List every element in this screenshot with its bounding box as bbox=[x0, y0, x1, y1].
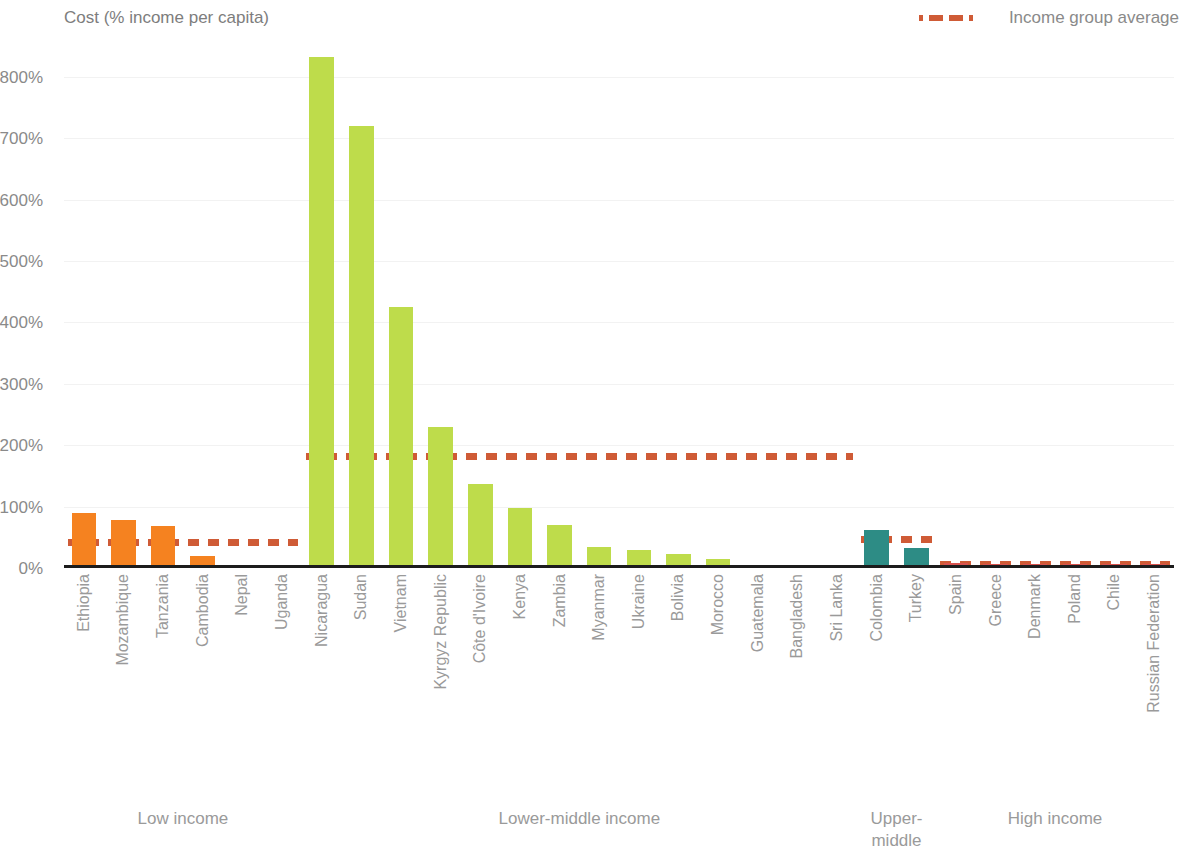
bar-slot bbox=[143, 40, 183, 568]
x-axis-tick-label: Côte d'Ivoire bbox=[471, 574, 489, 663]
bar[interactable] bbox=[349, 126, 374, 568]
bar-slot bbox=[1055, 40, 1095, 568]
x-axis-label-slot: Bangladesh bbox=[778, 574, 818, 784]
x-axis-label-slot: Greece bbox=[976, 574, 1016, 784]
x-axis-tick-label: Sri Lanka bbox=[828, 574, 846, 642]
bar-slot bbox=[1015, 40, 1055, 568]
bar-slot bbox=[896, 40, 936, 568]
bar[interactable] bbox=[151, 526, 176, 568]
bar-slot bbox=[183, 40, 223, 568]
x-axis-label-slot: Denmark bbox=[1015, 574, 1055, 784]
x-axis-tick-label: Poland bbox=[1066, 574, 1084, 624]
axis-baseline bbox=[64, 565, 1174, 568]
bar-slot bbox=[619, 40, 659, 568]
bar-series bbox=[64, 40, 1174, 568]
income-group-label: Lower-middle income bbox=[302, 808, 857, 856]
y-axis-tick-label: 0% bbox=[0, 559, 43, 579]
income-group-label: Upper-middle income bbox=[857, 808, 936, 856]
x-axis-tick-label: Nepal bbox=[233, 574, 251, 616]
bar[interactable] bbox=[547, 525, 572, 568]
x-axis-tick-label: Greece bbox=[987, 574, 1005, 626]
bar[interactable] bbox=[468, 484, 493, 568]
bar-slot bbox=[738, 40, 778, 568]
bar-slot bbox=[778, 40, 818, 568]
x-axis-tick-label: Kenya bbox=[511, 574, 529, 619]
x-axis-label-slot: Vietnam bbox=[381, 574, 421, 784]
x-axis-tick-label: Bolivia bbox=[669, 574, 687, 621]
bar-slot bbox=[698, 40, 738, 568]
x-axis-labels: EthiopiaMozambiqueTanzaniaCambodiaNepalU… bbox=[64, 574, 1174, 784]
bar-slot bbox=[302, 40, 342, 568]
x-axis-label-slot: Uganda bbox=[262, 574, 302, 784]
x-axis-label-slot: Sri Lanka bbox=[817, 574, 857, 784]
x-axis-label-slot: Bolivia bbox=[659, 574, 699, 784]
bar[interactable] bbox=[428, 427, 453, 568]
chart-legend: Income group average bbox=[919, 8, 1179, 28]
legend-label-income-group-average: Income group average bbox=[1009, 8, 1179, 28]
x-axis-label-slot: Zambia bbox=[540, 574, 580, 784]
x-axis-tick-label: Chile bbox=[1105, 574, 1123, 610]
x-axis-label-slot: Cambodia bbox=[183, 574, 223, 784]
y-axis-tick-label: 600% bbox=[0, 191, 43, 211]
x-axis-tick-label: Colombia bbox=[868, 574, 886, 642]
x-axis-tick-label: Turkey bbox=[907, 574, 925, 622]
bar-slot bbox=[262, 40, 302, 568]
y-axis-tick-label: 800% bbox=[0, 68, 43, 88]
x-axis-tick-label: Vietnam bbox=[392, 574, 410, 632]
bar-slot bbox=[64, 40, 104, 568]
bar-slot bbox=[1134, 40, 1174, 568]
x-axis-tick-label: Guatemala bbox=[749, 574, 767, 652]
bar[interactable] bbox=[389, 307, 414, 568]
y-axis-tick-label: 500% bbox=[0, 252, 43, 272]
income-group-label: Low income bbox=[64, 808, 302, 856]
x-axis-tick-label: Myanmar bbox=[590, 574, 608, 641]
x-axis-tick-label: Ukraine bbox=[630, 574, 648, 629]
y-axis-tick-label: 100% bbox=[0, 498, 43, 518]
dashed-line-swatch-icon bbox=[919, 15, 993, 21]
x-axis-label-slot: Sudan bbox=[341, 574, 381, 784]
bar-slot bbox=[936, 40, 976, 568]
x-axis-label-slot: Guatemala bbox=[738, 574, 778, 784]
x-axis-label-slot: Chile bbox=[1095, 574, 1135, 784]
bar-slot bbox=[857, 40, 897, 568]
x-axis-label-slot: Colombia bbox=[857, 574, 897, 784]
x-axis-label-slot: Ethiopia bbox=[64, 574, 104, 784]
bar[interactable] bbox=[864, 530, 889, 568]
x-axis-tick-label: Bangladesh bbox=[788, 574, 806, 659]
bar-slot bbox=[223, 40, 263, 568]
x-axis-label-slot: Kenya bbox=[500, 574, 540, 784]
x-axis-label-slot: Myanmar bbox=[579, 574, 619, 784]
bar-slot bbox=[421, 40, 461, 568]
x-axis-label-slot: Poland bbox=[1055, 574, 1095, 784]
y-axis-tick-label: 400% bbox=[0, 313, 43, 333]
x-axis-label-slot: Morocco bbox=[698, 574, 738, 784]
x-axis-label-slot: Côte d'Ivoire bbox=[460, 574, 500, 784]
x-axis-tick-label: Ethiopia bbox=[75, 574, 93, 632]
x-axis-tick-label: Cambodia bbox=[194, 574, 212, 647]
bar-chart: Cost (% income per capita) Income group … bbox=[0, 0, 1187, 856]
x-axis-label-slot: Spain bbox=[936, 574, 976, 784]
x-axis-tick-label: Denmark bbox=[1026, 574, 1044, 639]
bar[interactable] bbox=[309, 57, 334, 568]
bar-slot bbox=[341, 40, 381, 568]
plot-area: 0%100%200%300%400%500%600%700%800% bbox=[64, 40, 1174, 568]
bar[interactable] bbox=[111, 520, 136, 568]
x-axis-tick-label: Spain bbox=[947, 574, 965, 615]
x-axis-tick-label: Zambia bbox=[551, 574, 569, 627]
bar-slot bbox=[817, 40, 857, 568]
x-axis-tick-label: Tanzania bbox=[154, 574, 172, 638]
bar-slot bbox=[500, 40, 540, 568]
x-axis-label-slot: Nicaragua bbox=[302, 574, 342, 784]
bar-slot bbox=[579, 40, 619, 568]
bar-slot bbox=[659, 40, 699, 568]
bar-slot bbox=[104, 40, 144, 568]
bar-slot bbox=[976, 40, 1016, 568]
x-axis-tick-label: Kyrgyz Republic bbox=[432, 574, 450, 690]
y-axis-tick-label: 300% bbox=[0, 375, 43, 395]
x-axis-tick-label: Sudan bbox=[352, 574, 370, 620]
bar[interactable] bbox=[72, 513, 97, 568]
x-axis-tick-label: Uganda bbox=[273, 574, 291, 630]
y-axis-title: Cost (% income per capita) bbox=[64, 8, 269, 28]
bar[interactable] bbox=[508, 508, 533, 568]
bar-slot bbox=[460, 40, 500, 568]
